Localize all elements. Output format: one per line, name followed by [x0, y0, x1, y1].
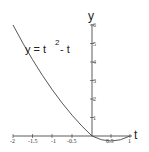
svg-text:-1.5: -1.5 — [28, 138, 38, 144]
y-tick-labels: 1 2 3 4 5 6 — [93, 22, 96, 121]
svg-text:5: 5 — [93, 41, 96, 47]
svg-text:y = t: y = t — [25, 43, 46, 55]
svg-text:- t: - t — [60, 43, 70, 55]
t-axis-label: t — [134, 128, 138, 142]
y-axis-label: y — [88, 9, 94, 23]
svg-text:2: 2 — [93, 96, 96, 102]
function-plot: -2 -1.5 -1 -0.5 0.5 1 1 2 3 4 5 6 y t y … — [0, 0, 149, 152]
svg-text:-1: -1 — [51, 138, 56, 144]
svg-text:1: 1 — [93, 115, 96, 121]
svg-text:4: 4 — [93, 59, 96, 65]
svg-text:1: 1 — [128, 138, 131, 144]
svg-text:-2: -2 — [10, 138, 15, 144]
svg-text:-0.5: -0.5 — [67, 138, 77, 144]
equation-annotation: y = t 2 - t — [25, 38, 70, 55]
svg-text:3: 3 — [93, 78, 96, 84]
